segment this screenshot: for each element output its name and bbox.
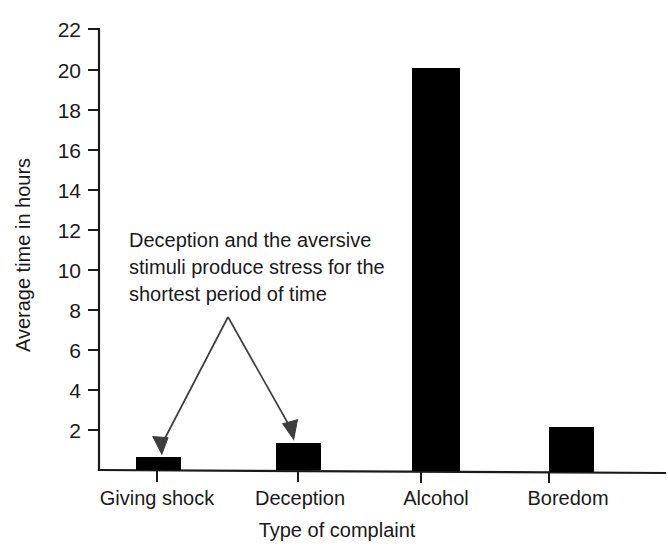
y-tick-label-10: 10 xyxy=(58,259,81,282)
annotation-line-3: shortest period of time xyxy=(129,283,327,305)
x-tick-label-boredom: Boredom xyxy=(527,487,608,509)
y-tick-label-4: 4 xyxy=(69,379,81,402)
y-tick-label-16: 16 xyxy=(58,139,81,162)
x-tick-label-alcohol: Alcohol xyxy=(403,487,469,509)
bar-alcohol xyxy=(412,68,460,471)
y-tick-label-2: 2 xyxy=(69,419,81,442)
bar-deception xyxy=(276,443,321,470)
x-axis-title: Type of complaint xyxy=(259,519,416,541)
annotation-line-1: Deception and the aversive xyxy=(129,229,371,251)
x-tick-label-deception: Deception xyxy=(255,487,345,509)
y-tick-label-14: 14 xyxy=(58,179,82,202)
y-tick-label-6: 6 xyxy=(69,339,81,362)
bar-boredom xyxy=(549,427,594,472)
y-tick-label-12: 12 xyxy=(58,219,81,242)
y-axis-title: Average time in hours xyxy=(12,158,34,352)
annotation-line-2: stimuli produce stress for the xyxy=(129,256,385,278)
bar-giving-shock xyxy=(136,457,181,470)
bar-chart-figure: 22 20 18 16 14 12 10 8 6 4 2 Average tim… xyxy=(0,0,668,551)
y-tick-label-20: 20 xyxy=(58,59,81,82)
y-tick-label-18: 18 xyxy=(58,99,81,122)
y-tick-label-22: 22 xyxy=(58,18,81,41)
y-tick-label-8: 8 xyxy=(69,299,81,322)
x-tick-label-giving-shock: Giving shock xyxy=(100,487,215,509)
